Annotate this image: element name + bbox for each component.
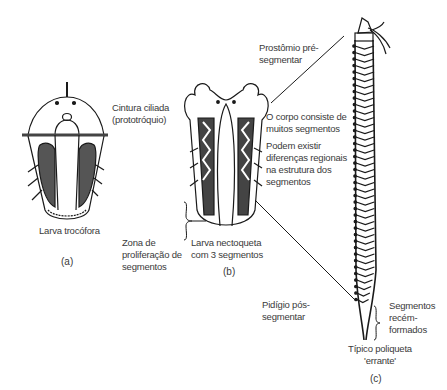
label-proliferation-zone: Zona deproliferação desegmentos [122, 237, 182, 273]
label-prostomium: Prostômio pré-segmentar [259, 42, 319, 66]
label-regional-differences: Podem existirdiferenças regionaisna estr… [266, 140, 347, 188]
panel-tag-a: (a) [61, 256, 73, 267]
label-new-segments: Segmentosrecém-formados [389, 300, 435, 336]
label-ciliated-girdle: Cintura ciliada(prototróquio) [112, 102, 169, 126]
caption-trochophore: Larva trocófora [39, 225, 100, 237]
trochophore-larva-drawing [22, 82, 108, 219]
new-segments-bracket [374, 306, 380, 340]
label-body-segments: O corpo consiste demuitos segmentos [266, 111, 347, 135]
panel-tag-b: (b) [223, 266, 235, 277]
label-pygidium: Pidígio pós-segmentar [262, 299, 310, 323]
diagram-artwork [0, 0, 447, 390]
caption-nectochaete: Larva nectoquetacom 3 segmentos [191, 237, 263, 261]
caption-polychaete: Típico poliqueta'errante' [344, 343, 416, 367]
pygidium-connector-line [255, 200, 356, 301]
panel-tag-c: (c) [370, 373, 382, 384]
nectochaete-larva-drawing [184, 84, 268, 240]
